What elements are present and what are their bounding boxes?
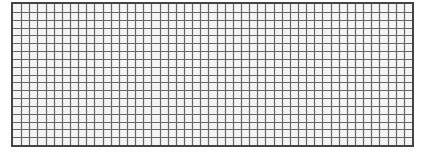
- grid-lines: [13, 4, 412, 145]
- canvas: [0, 0, 426, 152]
- grid: [11, 2, 414, 147]
